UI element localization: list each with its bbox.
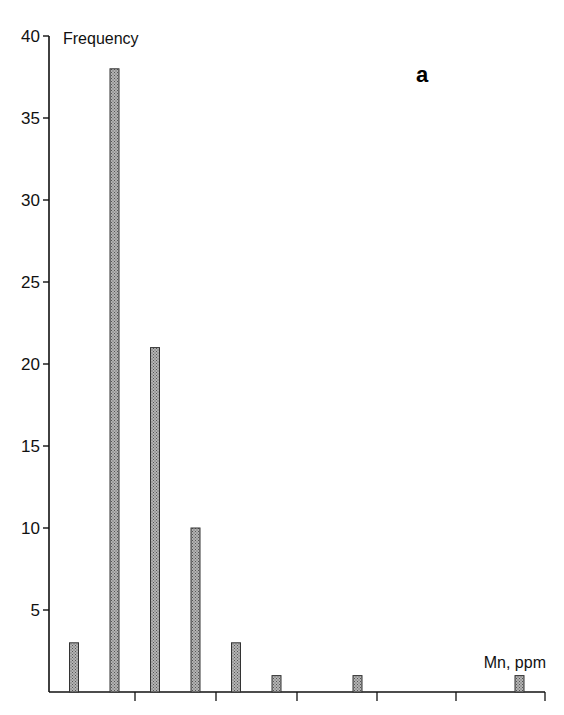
y-tick-label: 20 [21,355,40,374]
histogram-bar [353,676,362,692]
y-tick-label: 10 [21,519,40,538]
y-axis-title: Frequency [63,30,139,47]
y-tick-label: 15 [21,437,40,456]
histogram-bar [191,528,200,692]
y-axis: 510152025303540 [21,27,49,692]
panel-label: a [416,62,429,87]
y-tick-label: 25 [21,273,40,292]
y-tick-label: 30 [21,191,40,210]
histogram-chart: 510152025303540 Frequency Mn, ppm a [0,0,564,715]
histogram-bar [232,643,241,692]
histogram-bar [110,69,119,692]
y-tick-label: 40 [21,27,40,46]
histogram-bar [151,348,160,692]
y-tick-label: 5 [31,601,40,620]
histogram-bar [70,643,79,692]
histogram-bar [515,676,524,692]
bars [70,69,525,692]
x-axis-title: Mn, ppm [484,654,546,671]
histogram-bar [272,676,281,692]
x-axis [49,692,545,701]
y-tick-label: 35 [21,109,40,128]
